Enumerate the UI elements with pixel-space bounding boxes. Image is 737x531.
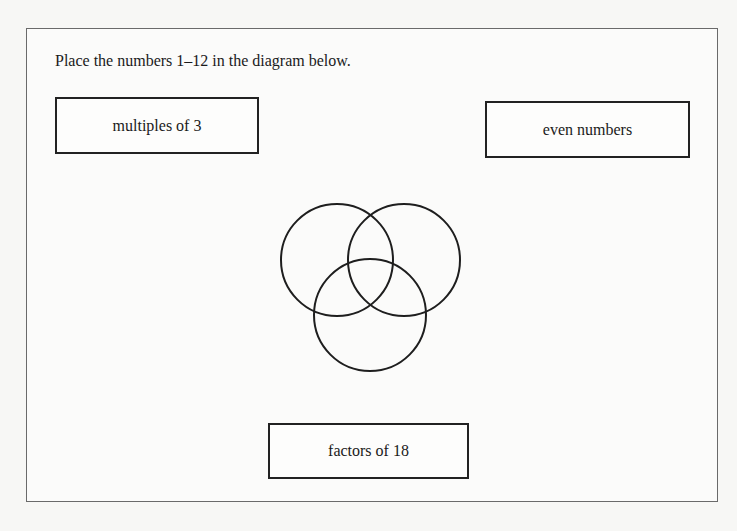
venn-diagram[interactable] [0,0,737,531]
